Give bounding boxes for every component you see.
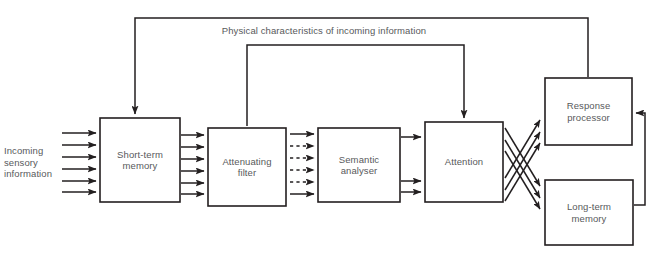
stm-to-filter-arrows <box>181 135 204 194</box>
label-attenuating-filter: Attenuating filter <box>208 128 286 206</box>
label-incoming-sensory-information: Incoming sensory information <box>4 145 62 180</box>
diagram-canvas: Short-term memory Attenuating filter Sem… <box>0 0 648 257</box>
input-arrows <box>62 133 96 192</box>
analyser-to-attention-arrows <box>401 137 421 192</box>
label-semantic-analyser: Semantic analyser <box>318 128 400 202</box>
label-feedback-caption: Physical characteristics of incoming inf… <box>148 25 500 36</box>
label-long-term-memory: Long-term memory <box>545 180 633 245</box>
filter-to-analyser-arrows <box>290 134 314 194</box>
inner-feedback-path <box>247 45 464 126</box>
label-response-processor: Response processor <box>545 78 632 145</box>
label-attention: Attention <box>425 122 503 202</box>
ltm-to-response-path <box>634 113 645 205</box>
label-short-term-memory: Short-term memory <box>100 118 180 202</box>
